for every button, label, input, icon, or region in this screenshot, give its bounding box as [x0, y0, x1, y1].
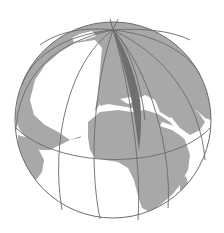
globe-illustration	[0, 0, 224, 233]
